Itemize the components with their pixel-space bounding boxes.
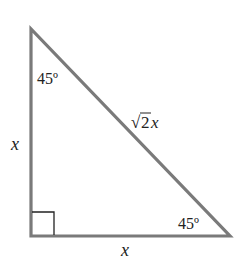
hypotenuse-variable: x [150, 113, 159, 132]
triangle-diagram: 45º 45º x x √ 2 x [0, 0, 237, 272]
radical-sign: √ [131, 113, 141, 132]
left-leg-label: x [10, 134, 19, 154]
right-triangle [31, 29, 230, 236]
bottom-right-angle-label: 45º [178, 215, 199, 232]
bottom-leg-label: x [120, 240, 129, 260]
right-angle-marker [32, 212, 54, 235]
hypotenuse-label: √ 2 x [131, 113, 159, 132]
top-angle-label: 45º [37, 70, 58, 87]
radicand: 2 [141, 113, 150, 132]
